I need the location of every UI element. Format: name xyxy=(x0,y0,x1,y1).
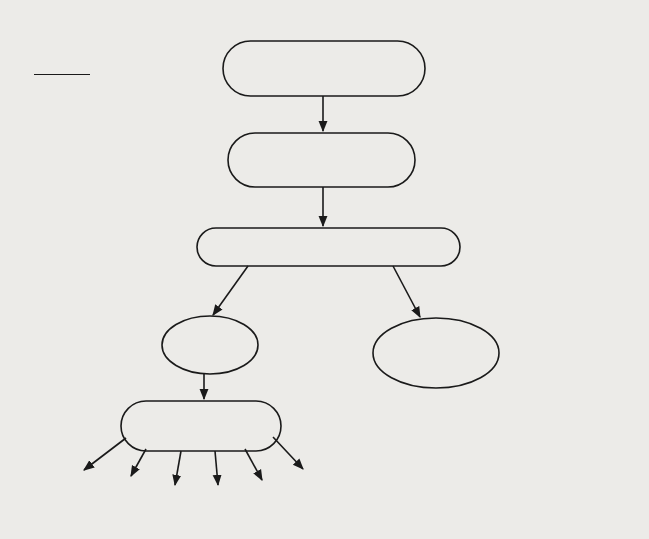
node-hundreds-shape xyxy=(228,133,415,187)
node-units-shape xyxy=(121,401,281,451)
node-yes-case-shape xyxy=(373,318,499,388)
edge-units-to-leaf-4 xyxy=(215,451,218,485)
edge-units-to-leaf-3 xyxy=(175,451,181,485)
cryptarithm-puzzle xyxy=(24,73,90,79)
edge-tens-to-no xyxy=(213,266,248,315)
sum-rule xyxy=(34,74,90,75)
edge-tens-to-yes xyxy=(393,266,420,317)
flowchart-graphics xyxy=(0,0,649,539)
edge-units-to-leaf-2 xyxy=(131,449,146,476)
edge-units-to-leaf-5 xyxy=(245,449,262,480)
edge-units-to-leaf-1 xyxy=(84,438,126,470)
node-tens-question-shape xyxy=(197,228,460,266)
page xyxy=(0,0,649,539)
edge-units-to-leaf-6 xyxy=(273,437,303,469)
node-no-case-shape xyxy=(162,316,258,374)
node-left-most-shape xyxy=(223,41,425,96)
